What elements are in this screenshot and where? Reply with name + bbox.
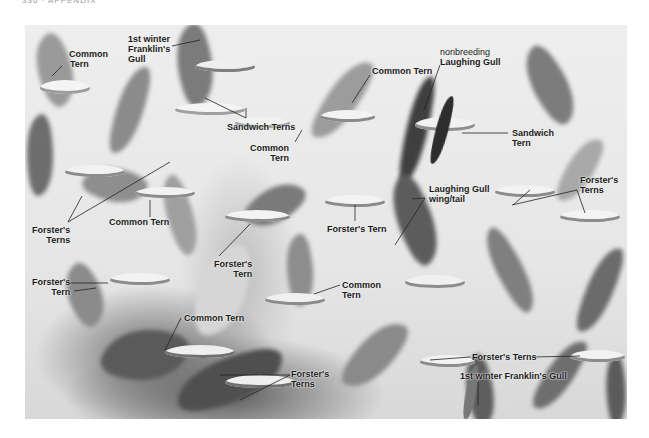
bird-body	[495, 185, 555, 197]
label-line: Sandwich Terns	[227, 122, 295, 132]
bird-wing-shape	[338, 310, 413, 399]
label-line: Laughing Gull	[440, 57, 501, 67]
label-line: Common	[250, 143, 289, 153]
label-line: Forster's	[32, 225, 70, 235]
bird-body	[560, 210, 620, 222]
label-line: Terns	[580, 185, 618, 195]
bird-body	[325, 195, 385, 207]
bird-wing-shape	[509, 42, 591, 129]
label-forsters-terns-4: Forster's Terns	[472, 352, 537, 362]
label-forsters-terns-3: Forster's Terns	[291, 369, 329, 389]
label-line: Common Tern	[372, 66, 432, 76]
bird-wing-shape	[308, 52, 378, 148]
label-line: Common Tern	[184, 313, 244, 323]
label-line: Tern	[250, 153, 289, 163]
label-laughing-gull-nonbreeding: nonbreeding Laughing Gull	[440, 47, 501, 67]
label-line: Forster's Terns	[472, 352, 537, 362]
label-common-tern-4: Common Tern	[109, 217, 169, 227]
label-line: Forster's	[214, 259, 252, 269]
label-common-tern-6: Common Tern	[184, 313, 244, 323]
label-line: Common	[69, 49, 108, 59]
bird-body	[405, 275, 465, 288]
bird-body	[225, 210, 290, 222]
bird-body	[165, 345, 235, 358]
label-sandwich-tern-2: Sandwich Tern	[512, 128, 554, 148]
label-line: Common	[342, 280, 381, 290]
bird-wing-shape	[240, 169, 309, 241]
label-line: Tern	[342, 290, 381, 300]
bird-body	[225, 375, 295, 388]
label-line: Terns	[32, 235, 70, 245]
bird-body	[40, 80, 90, 94]
label-sandwich-terns-1: Sandwich Terns	[227, 122, 295, 132]
bird-body	[65, 165, 125, 177]
label-line: Sandwich	[512, 128, 554, 138]
label-line: Common Tern	[109, 217, 169, 227]
bird-body	[175, 103, 245, 115]
label-line: Forster's Tern	[327, 224, 387, 234]
label-franklins-gull-1: 1st winter Franklin's Gull	[128, 34, 170, 64]
label-line: Tern	[32, 287, 70, 297]
label-forsters-terns-2: Forster's Terns	[580, 175, 618, 195]
label-common-tern-3: Common Tern	[250, 143, 289, 163]
label-forsters-terns-1: Forster's Terns	[32, 225, 70, 245]
bird-body	[420, 355, 475, 367]
label-common-tern-1: Common Tern	[69, 49, 108, 69]
label-line: Gull	[128, 54, 170, 64]
label-line: wing/tail	[429, 194, 490, 204]
label-line: Forster's	[32, 277, 70, 287]
bird-body	[195, 60, 255, 72]
label-line: Laughing Gull	[429, 184, 490, 194]
bird-body	[135, 187, 195, 198]
label-line: 1st winter	[128, 34, 170, 44]
label-forsters-tern-1: Forster's Tern	[327, 224, 387, 234]
bird-wing-shape	[79, 153, 151, 218]
bird-wing-shape	[472, 225, 548, 316]
label-line: Terns	[291, 379, 329, 389]
bird-body	[570, 350, 625, 362]
label-line: Forster's	[291, 369, 329, 379]
label-forsters-tern-3: Forster's Tern	[32, 277, 70, 297]
bird-wing-shape	[599, 354, 627, 419]
label-line: Tern	[214, 269, 252, 279]
label-common-tern-2: Common Tern	[372, 66, 432, 76]
label-forsters-tern-2: Forster's Tern	[214, 259, 252, 279]
label-franklins-gull-2: 1st winter Franklin's Gull	[460, 371, 567, 381]
label-line: Tern	[69, 59, 108, 69]
label-line: Tern	[512, 138, 554, 148]
label-line: Franklin's	[128, 44, 170, 54]
bird-body	[110, 273, 170, 285]
bird-wing-shape	[107, 63, 152, 157]
running-head: 336 · APPENDIX	[22, 0, 96, 5]
label-laughing-gull-wingtail: Laughing Gull wing/tail	[429, 184, 490, 204]
label-line: 1st winter Franklin's Gull	[460, 371, 567, 381]
bird-body	[265, 293, 325, 305]
bird-wing-shape	[574, 243, 626, 338]
bird-wing-shape	[25, 30, 90, 111]
bird-wing-shape	[150, 172, 211, 257]
label-line: Forster's	[580, 175, 618, 185]
label-line: nonbreeding	[440, 47, 501, 57]
bird-body	[320, 110, 375, 122]
label-common-tern-5: Common Tern	[342, 280, 381, 300]
bird-wing-shape	[554, 132, 606, 208]
bird-wing-shape	[25, 113, 62, 197]
